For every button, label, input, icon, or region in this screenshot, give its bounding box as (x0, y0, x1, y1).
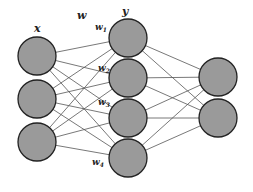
weight-w4-label: w4 (92, 157, 104, 168)
hidden-node-3 (109, 99, 147, 137)
weight-label: w (77, 9, 87, 22)
hidden-node-2 (109, 59, 147, 97)
hidden-node-1 (109, 19, 147, 57)
edges-hidden-output (128, 38, 218, 158)
weight-w3-label: w3 (98, 97, 110, 108)
output-node-1 (199, 58, 237, 96)
hidden-layer (109, 19, 147, 177)
input-layer (18, 37, 56, 161)
output-node-2 (199, 99, 237, 137)
neural-network-diagram: x w y w1 w2 w3 w4 (0, 0, 253, 192)
hidden-layer-label: y (121, 5, 130, 18)
input-node-2 (18, 80, 56, 118)
output-layer (199, 58, 237, 137)
weight-w1-label: w1 (95, 22, 107, 33)
input-layer-label: x (33, 22, 41, 35)
input-node-3 (18, 123, 56, 161)
hidden-node-4 (109, 139, 147, 177)
weight-w2-label: w2 (98, 63, 110, 74)
input-node-1 (18, 37, 56, 75)
